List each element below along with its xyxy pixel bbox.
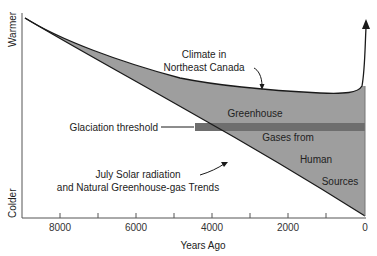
y-label-warmer: Warmer [7, 11, 18, 47]
greenhouse-label-1: Greenhouse [227, 108, 282, 119]
tick-2000: 2000 [277, 222, 300, 233]
greenhouse-label-2: Gases from [262, 132, 314, 143]
greenhouse-label-3: Human [300, 154, 332, 165]
arrow-up-icon [362, 19, 370, 29]
tick-4000: 4000 [201, 222, 224, 233]
glaciation-threshold-label: Glaciation threshold [70, 122, 158, 133]
x-axis-label: Years Ago [180, 240, 226, 251]
tick-8000: 8000 [49, 222, 72, 233]
climate-label-line2: Northeast Canada [163, 62, 245, 73]
tick-6000: 6000 [125, 222, 148, 233]
y-label-colder: Colder [7, 188, 18, 218]
greenhouse-label-4: Sources [322, 176, 359, 187]
chart: 8000 6000 4000 2000 0 Years Ago Warmer C… [0, 0, 377, 256]
solar-label-line2: and Natural Greenhouse-gas Trends [57, 182, 219, 193]
climate-pointer-arrow [254, 68, 262, 86]
solar-label-line1: July Solar radiation [95, 169, 180, 180]
climate-label-line1: Climate in [182, 49, 226, 60]
x-ticks [60, 213, 326, 218]
solar-pointer-arrow [200, 164, 224, 175]
tick-0: 0 [362, 222, 368, 233]
